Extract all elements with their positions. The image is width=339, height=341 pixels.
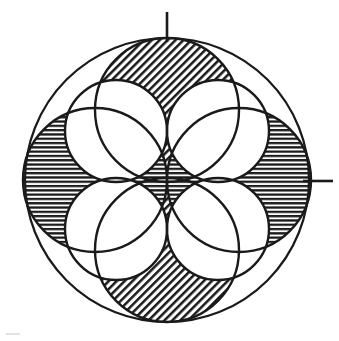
rosette-diagram (0, 0, 339, 341)
figure-root (0, 0, 339, 341)
scan-artifact-speck (6, 333, 20, 335)
